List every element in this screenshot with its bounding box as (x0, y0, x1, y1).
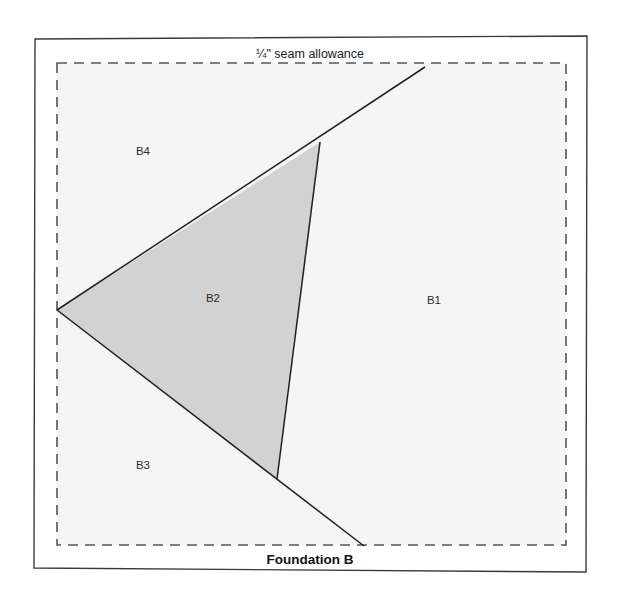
seam-allowance-note: ¼" seam allowance (256, 47, 364, 61)
piece-label-b3: B3 (136, 459, 150, 471)
diagram-page: B1 B2 B3 B4 ¼" seam allowance Foundation… (0, 0, 625, 604)
foundation-title: Foundation B (267, 552, 354, 567)
piece-label-b1: B1 (427, 294, 441, 306)
piece-label-b4: B4 (136, 145, 151, 157)
piece-label-b2: B2 (206, 292, 220, 304)
foundation-pattern-diagram: B1 B2 B3 B4 ¼" seam allowance Foundation… (0, 0, 625, 604)
